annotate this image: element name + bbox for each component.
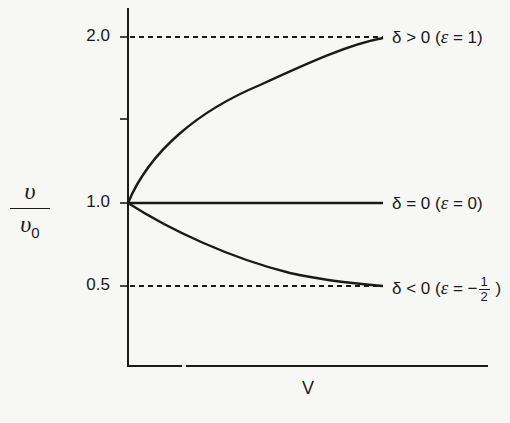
x-axis-label: V [302,378,314,399]
y-tick-label-2.0: 2.0 [60,26,110,46]
y-tick-label-0.5: 0.5 [60,275,110,295]
curve-delta-positive [128,38,383,203]
curve-delta-negative [128,203,383,286]
y-axis-label: υ υ0 [10,178,50,246]
series-label-delta-zero: δ = 0 (ε = 0) [392,192,483,214]
y-tick-label-1.0: 1.0 [60,192,110,212]
fraction-one-half: 12 [479,275,490,304]
series-label-delta-negative: δ < 0 (ε = −12 ) [392,275,501,304]
series-label-delta-positive: δ > 0 (ε = 1) [392,26,483,48]
